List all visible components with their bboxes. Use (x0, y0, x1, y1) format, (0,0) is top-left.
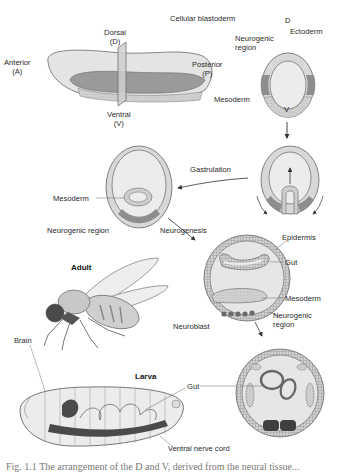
post-gastrulation-section (96, 146, 172, 228)
embryo-axes-drawing (48, 42, 212, 106)
posterior-label: Posterior(P) (192, 60, 222, 78)
neurogenesis-gut-label: Gut (285, 258, 297, 267)
blastoderm-neurogenic-region-label: Neurogenicregion (235, 34, 274, 52)
ventral-v-label: V (284, 105, 289, 114)
ectoderm-label: Ectoderm (290, 27, 323, 36)
dorsal-d-label: D (285, 16, 290, 25)
dorsal-label: Dorsal(D) (104, 28, 126, 46)
ventral-nerve-cord-label: Ventral nerve cord (168, 444, 230, 453)
larva-drawing (20, 386, 240, 446)
gastrulation-start-section (257, 146, 323, 214)
neurogenesis-mesoderm-label: Mesoderm (285, 294, 321, 303)
anterior-label: Anterior(A) (4, 58, 31, 76)
blastoderm-cross-section (261, 53, 316, 138)
cellular-blastoderm-title: Cellular blastoderm (170, 14, 235, 23)
adult-fly-drawing (44, 258, 168, 350)
larva-gut-label: Gut (187, 382, 199, 391)
neurogenesis-label: Neurogenesis (160, 226, 207, 235)
brain-label: Brain (14, 336, 32, 345)
blastoderm-mesoderm-label: Mesoderm (214, 95, 250, 104)
gastrulation-neurogenic-region-label: Neurogenic region (47, 226, 109, 235)
larva-cross-section (236, 349, 324, 437)
epidermis-label: Epidermis (282, 233, 316, 242)
figure-caption: Fig. 1.1 The arrangement of the D and V,… (6, 461, 300, 472)
neurogenesis-neurogenic-region-label: Neurogenicregion (273, 311, 312, 329)
neuroblast-label: Neuroblast (173, 322, 210, 331)
adult-title: Adult (71, 263, 91, 272)
gastrulation-mesoderm-label: Mesoderm (53, 194, 89, 203)
larva-title: Larva (135, 372, 156, 381)
gastrulation-label: Gastrulation (190, 165, 231, 174)
gastrulation-arrow (178, 178, 248, 188)
ventral-label: Ventral(V) (107, 110, 131, 128)
